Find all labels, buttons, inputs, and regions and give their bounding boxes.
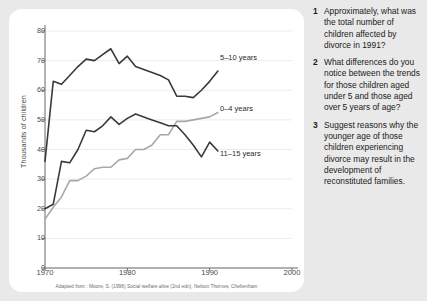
page-root: Thousands of children 01020304050607080 … — [0, 0, 427, 301]
chart-card: Thousands of children 01020304050607080 … — [9, 9, 304, 292]
question-number: 1 — [313, 6, 324, 51]
question-text: What differences do you notice between t… — [324, 57, 425, 113]
question-item: 1Approximately, what was the total numbe… — [313, 6, 425, 51]
question-number: 3 — [313, 120, 324, 188]
question-number: 2 — [313, 57, 324, 113]
series-line-11-15-years — [45, 114, 218, 209]
series-line-0-4-years — [45, 112, 218, 219]
questions-panel: 1Approximately, what was the total numbe… — [313, 6, 425, 296]
question-text: Approximately, what was the total number… — [324, 6, 425, 51]
question-item: 2What differences do you notice between … — [313, 57, 425, 113]
series-label-11-15-years: 11–15 years — [220, 149, 261, 158]
series-label-5-10-years: 5–10 years — [220, 53, 257, 62]
source-caption: Adapted from : Moore, S. (1996) Social w… — [9, 284, 304, 289]
question-text: Suggest reasons why the younger age of t… — [324, 120, 425, 188]
chart-plot-area: Thousands of children 01020304050607080 … — [9, 9, 304, 292]
series-label-0-4-years: 0–4 years — [220, 104, 253, 113]
question-item: 3Suggest reasons why the younger age of … — [313, 120, 425, 188]
